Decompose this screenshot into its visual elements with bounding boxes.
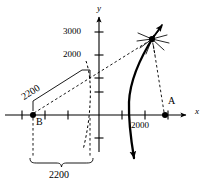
y-axis-label: y bbox=[97, 4, 101, 13]
point-b-label: B bbox=[36, 117, 43, 127]
hyperbola-solid-branch bbox=[129, 36, 154, 158]
hyperbola-figure: y x 3000 2000 2000 A B 2200 2200 bbox=[0, 0, 215, 192]
line-b-to-burst bbox=[34, 41, 149, 113]
y-axis bbox=[95, 17, 104, 152]
x-tick-label-2000: 2000 bbox=[131, 121, 149, 130]
y-tick-label-2000: 2000 bbox=[63, 50, 81, 59]
point-a-label: A bbox=[168, 96, 175, 106]
line-a-to-burst bbox=[153, 43, 164, 112]
y-tick-label-3000: 3000 bbox=[63, 27, 81, 36]
hyperbola-dashed-branch bbox=[83, 61, 90, 150]
starburst-icon bbox=[137, 25, 169, 55]
bottom-dimension-label: 2200 bbox=[49, 170, 69, 180]
point-a-marker bbox=[162, 112, 168, 118]
x-axis-label: x bbox=[195, 107, 199, 116]
